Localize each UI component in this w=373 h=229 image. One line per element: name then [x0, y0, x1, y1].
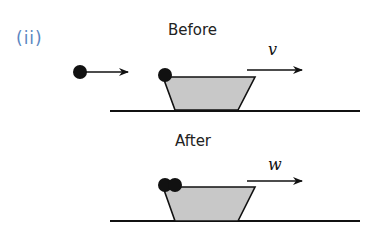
cart-before	[163, 77, 255, 110]
ball-on-cart-2-icon	[168, 178, 182, 192]
incoming-ball-icon	[73, 65, 87, 79]
after-scene	[110, 178, 360, 221]
before-scene	[73, 65, 360, 111]
ball-on-cart-icon	[158, 68, 172, 82]
collision-diagram	[0, 0, 373, 229]
cart-after	[163, 187, 255, 221]
